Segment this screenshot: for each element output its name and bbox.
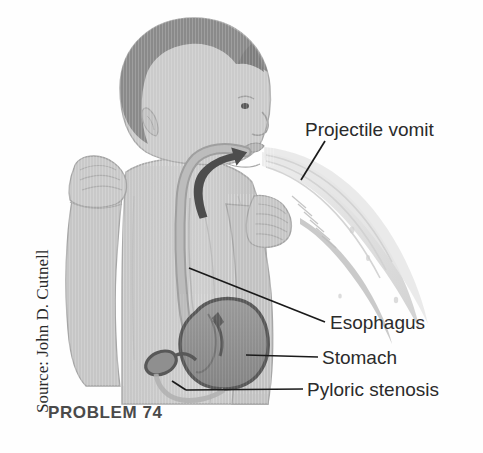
leader-pyloric-b [186, 389, 303, 390]
infant-head [118, 18, 274, 167]
label-projectile-vomit: Projectile vomit [305, 120, 434, 139]
medical-illustration-figure: Projectile vomit Esophagus Stomach Pylor… [0, 0, 483, 453]
problem-caption: PROBLEM 74 [48, 403, 163, 423]
label-stomach: Stomach [322, 348, 397, 367]
raised-left-arm [64, 156, 127, 386]
label-pyloric-stenosis: Pyloric stenosis [307, 380, 439, 399]
source-credit: Source: John D. Cutnell [33, 203, 53, 413]
label-esophagus: Esophagus [330, 313, 425, 332]
